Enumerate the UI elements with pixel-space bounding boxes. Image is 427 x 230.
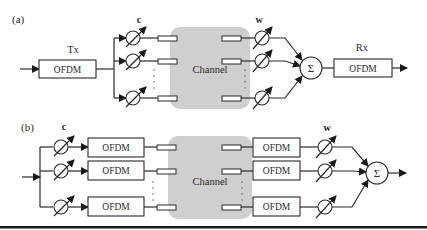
tx-ofdm-label: OFDM	[54, 65, 82, 75]
phase-shifter-icon	[54, 140, 68, 154]
tx-branch-1	[114, 27, 177, 47]
antenna-icon	[222, 145, 241, 150]
tx-branch-2	[114, 50, 177, 70]
ellipsis-dots	[152, 181, 154, 201]
tx-weights-label: c	[137, 14, 142, 25]
rx-label: Rx	[356, 42, 369, 53]
antenna-icon	[222, 169, 241, 174]
channel-label: Channel	[193, 176, 228, 187]
rx-ofdm-label: OFDM	[263, 202, 291, 212]
phase-shifter-icon	[126, 54, 140, 68]
diagram-canvas: (a) Channel Tx OFDM c	[0, 0, 427, 230]
rx-ofdm-label: OFDM	[263, 166, 291, 176]
tx-ofdm-label: OFDM	[102, 166, 130, 176]
bottom-rule	[0, 226, 427, 229]
rx-weights-label: w	[255, 14, 263, 25]
phase-shifter-icon	[126, 31, 140, 45]
sum-symbol: Σ	[308, 62, 314, 74]
antenna-icon	[222, 96, 241, 101]
antenna-icon	[157, 145, 176, 150]
tx-ofdm-label: OFDM	[102, 202, 130, 212]
phase-shifter-icon	[126, 91, 140, 105]
panel-b: (b) Channel c OFDM OFDM	[21, 121, 406, 219]
antenna-icon	[222, 205, 241, 210]
antenna-icon	[157, 169, 176, 174]
tx-label: Tx	[67, 44, 79, 55]
panel-b-label: (b)	[21, 121, 34, 134]
panel-a: (a) Channel Tx OFDM c	[12, 13, 407, 109]
antenna-icon	[158, 96, 177, 101]
sum-symbol: Σ	[374, 167, 380, 179]
tx-weights-label: c	[62, 121, 67, 132]
rx-weights-label: w	[323, 122, 331, 133]
antenna-icon	[158, 36, 177, 41]
tx-branch-3	[114, 87, 177, 107]
tx-branch-1: OFDM	[40, 136, 176, 157]
rx-ofdm-label: OFDM	[263, 143, 291, 153]
ellipsis-dots	[153, 69, 155, 89]
tx-ofdm-label: OFDM	[102, 143, 130, 153]
phase-shifter-icon	[54, 200, 68, 214]
tx-branch-3: OFDM	[40, 196, 176, 216]
rx-ofdm-label: OFDM	[349, 64, 377, 74]
panel-a-label: (a)	[12, 13, 25, 26]
tx-branch-2: OFDM	[40, 160, 176, 180]
channel-label: Channel	[193, 64, 228, 75]
antenna-icon	[157, 205, 176, 210]
antenna-icon	[222, 59, 241, 64]
phase-shifter-icon	[54, 164, 68, 178]
antenna-icon	[158, 59, 177, 64]
antenna-icon	[222, 36, 241, 41]
